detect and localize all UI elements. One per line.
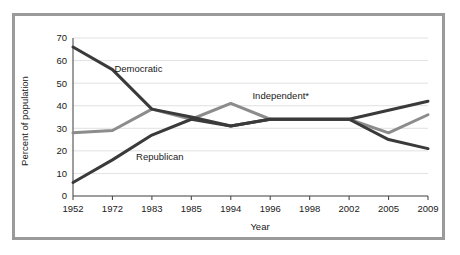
axis-lines: [73, 38, 428, 196]
population-party-line-chart: 010203040506070 195219721983198519941996…: [15, 16, 442, 237]
x-tick-labels: 1952197219831985199419961998200220052009: [62, 203, 438, 214]
y-tick-label: 70: [56, 32, 67, 43]
y-tick-labels: 010203040506070: [56, 32, 67, 201]
x-tick-label: 1985: [181, 203, 202, 214]
x-tick-label: 2005: [378, 203, 399, 214]
x-tick-label: 1996: [260, 203, 281, 214]
y-tick-label: 50: [56, 78, 67, 89]
y-tick-label: 30: [56, 123, 67, 134]
x-tick-label: 2009: [417, 203, 438, 214]
axis-ticks: [73, 196, 428, 200]
series-line-democratic: [73, 47, 428, 126]
y-tick-label: 20: [56, 145, 67, 156]
x-tick-label: 1952: [62, 203, 83, 214]
series-label-democratic: Democratic: [114, 63, 162, 74]
gridlines: [73, 38, 428, 196]
y-tick-label: 0: [62, 190, 67, 201]
y-tick-label: 60: [56, 55, 67, 66]
x-tick-label: 1972: [102, 203, 123, 214]
x-axis-title: Year: [250, 221, 269, 232]
x-tick-label: 1994: [220, 203, 241, 214]
chart-frame: 010203040506070 195219721983198519941996…: [12, 13, 445, 240]
x-tick-label: 1998: [299, 203, 320, 214]
y-axis-title: Percent of population: [19, 76, 30, 166]
chart-area: 010203040506070 195219721983198519941996…: [15, 16, 442, 237]
x-tick-label: 2002: [339, 203, 360, 214]
series-label-republican: Republican: [136, 151, 184, 162]
series-label-independent: Independent*: [252, 90, 309, 101]
x-tick-label: 1983: [141, 203, 162, 214]
y-tick-label: 40: [56, 100, 67, 111]
y-tick-label: 10: [56, 168, 67, 179]
